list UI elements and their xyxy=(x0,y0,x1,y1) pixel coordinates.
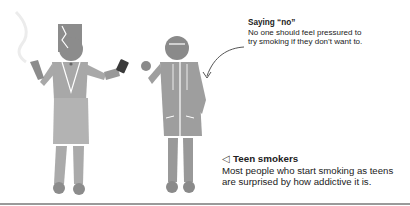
caption-teen-smokers: ◁Teen smokers Most people who start smok… xyxy=(222,153,410,188)
caption-body-line: are surprised by how addictive it is. xyxy=(222,176,410,188)
bottom-divider xyxy=(0,203,410,205)
caption-body-line: Most people who start smoking as teens xyxy=(222,165,410,177)
caption-body-line: try smoking if they don’t want to. xyxy=(248,37,408,47)
caption-title-row: ◁Teen smokers xyxy=(222,153,410,165)
offering-person-figure xyxy=(30,24,129,195)
smoke-wisp xyxy=(16,12,26,62)
caption-saying-no: Saying “no” No one should feel pressured… xyxy=(248,18,408,47)
teen-figure xyxy=(141,36,206,193)
caption-title: Teen smokers xyxy=(233,153,298,164)
curved-arrow-icon xyxy=(203,47,244,78)
caption-title: Saying “no” xyxy=(248,18,408,28)
caption-body-line: No one should feel pressured to xyxy=(248,28,408,38)
pointer-left-icon: ◁ xyxy=(222,153,230,165)
